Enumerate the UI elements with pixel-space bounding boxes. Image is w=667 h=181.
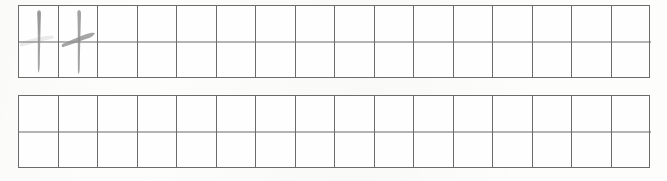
cell-midline-guide: [493, 131, 532, 132]
cell-midline-guide: [256, 131, 295, 132]
grid-cell[interactable]: [296, 6, 336, 77]
handwriting-worksheet: [0, 0, 667, 181]
practice-row-1: [18, 5, 650, 78]
cell-midline-guide: [98, 41, 137, 42]
cell-midline-guide: [177, 41, 216, 42]
cell-midline-guide: [98, 131, 137, 132]
erased-stroke-mark-icon: [19, 6, 58, 77]
grid-cell[interactable]: [217, 96, 257, 167]
grid-cell[interactable]: [138, 96, 178, 167]
cell-midline-guide: [454, 131, 493, 132]
grid-cell[interactable]: [572, 96, 612, 167]
handwritten-character-vertical-stroke-icon: [19, 6, 58, 77]
grid-cell[interactable]: [493, 96, 533, 167]
grid-cell[interactable]: [177, 6, 217, 77]
cell-midline-guide: [533, 41, 572, 42]
grid-cell[interactable]: [59, 6, 99, 77]
cell-midline-guide: [335, 41, 374, 42]
grid-cell[interactable]: [138, 6, 178, 77]
grid-cell[interactable]: [256, 6, 296, 77]
grid-cell[interactable]: [335, 6, 375, 77]
grid-cell[interactable]: [177, 96, 217, 167]
cell-midline-guide: [493, 41, 532, 42]
grid-cell[interactable]: [533, 6, 573, 77]
handwritten-character-cross-character-icon: [59, 6, 98, 77]
cell-midline-guide: [375, 131, 414, 132]
grid-cell[interactable]: [493, 6, 533, 77]
cell-midline-guide: [454, 41, 493, 42]
cell-midline-guide: [612, 131, 652, 132]
grid-cell[interactable]: [572, 6, 612, 77]
cell-midline-guide: [572, 131, 611, 132]
cell-midline-guide: [256, 41, 295, 42]
cell-midline-guide: [217, 41, 256, 42]
cell-midline-guide: [217, 131, 256, 132]
practice-row-2: [18, 95, 650, 168]
cell-midline-guide: [138, 131, 177, 132]
grid-cell[interactable]: [19, 6, 59, 77]
cell-midline-guide: [59, 41, 98, 42]
cell-midline-guide: [296, 131, 335, 132]
grid-cell[interactable]: [335, 96, 375, 167]
cell-midline-guide: [533, 131, 572, 132]
cell-midline-guide: [335, 131, 374, 132]
cell-midline-guide: [138, 41, 177, 42]
cell-midline-guide: [59, 131, 98, 132]
grid-cell[interactable]: [375, 96, 415, 167]
grid-cell[interactable]: [533, 96, 573, 167]
grid-cell[interactable]: [612, 96, 652, 167]
cell-midline-guide: [612, 41, 652, 42]
grid-cell[interactable]: [19, 96, 59, 167]
grid-cell[interactable]: [414, 96, 454, 167]
grid-cell[interactable]: [59, 96, 99, 167]
cell-midline-guide: [177, 131, 216, 132]
grid-cell[interactable]: [98, 6, 138, 77]
cell-midline-guide: [19, 131, 58, 132]
cell-midline-guide: [414, 131, 453, 132]
cell-midline-guide: [19, 41, 58, 42]
cell-midline-guide: [375, 41, 414, 42]
grid-cell[interactable]: [414, 6, 454, 77]
grid-cell[interactable]: [454, 6, 494, 77]
grid-cell[interactable]: [98, 96, 138, 167]
grid-cell[interactable]: [296, 96, 336, 167]
cell-midline-guide: [414, 41, 453, 42]
grid-cell[interactable]: [454, 96, 494, 167]
cell-midline-guide: [296, 41, 335, 42]
cell-midline-guide: [572, 41, 611, 42]
grid-cell[interactable]: [612, 6, 652, 77]
grid-cell[interactable]: [217, 6, 257, 77]
grid-cell[interactable]: [256, 96, 296, 167]
grid-cell[interactable]: [375, 6, 415, 77]
